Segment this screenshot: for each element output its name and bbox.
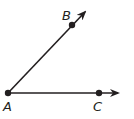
label-c: C: [93, 99, 103, 114]
label-a: A: [2, 99, 12, 114]
point-c: [96, 90, 102, 96]
point-a: [5, 90, 11, 96]
label-b: B: [62, 8, 71, 23]
angle-figure: B A C: [0, 0, 134, 119]
angle-diagram: B A C: [0, 0, 134, 119]
